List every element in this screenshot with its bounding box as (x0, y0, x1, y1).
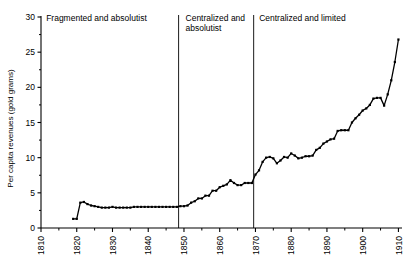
y-tick-label-5: 5 (30, 188, 35, 198)
data-point (326, 140, 328, 142)
data-point (169, 206, 171, 208)
data-point (183, 205, 185, 207)
data-point (126, 207, 128, 209)
data-point (262, 161, 264, 163)
data-point (229, 179, 231, 181)
series-line-per-capita-revenues (73, 40, 398, 219)
annotation-period-2-line-0: Centralized and (186, 13, 246, 23)
data-point (344, 129, 346, 131)
data-point (194, 200, 196, 202)
series-0-group (72, 38, 399, 220)
data-point (340, 129, 342, 131)
data-point (394, 61, 396, 63)
x-tick-label-1860: 1860 (215, 236, 225, 255)
data-point (211, 190, 213, 192)
data-point (294, 154, 296, 156)
data-point (312, 154, 314, 156)
data-point (265, 157, 267, 159)
data-point (97, 206, 99, 208)
data-point (308, 155, 310, 157)
data-point (240, 184, 242, 186)
data-point (140, 206, 142, 208)
x-tick-label-1910: 1910 (394, 236, 404, 255)
data-point (315, 149, 317, 151)
data-point (161, 206, 163, 208)
data-point (144, 206, 146, 208)
data-point (333, 138, 335, 140)
data-point (276, 162, 278, 164)
data-point (165, 206, 167, 208)
data-point (108, 207, 110, 209)
data-point (279, 159, 281, 161)
data-point (201, 197, 203, 199)
data-point (247, 182, 249, 184)
y-axis-label: Per capita revenues (gold grams) (6, 69, 15, 188)
data-point (354, 117, 356, 119)
y-tick-label-20: 20 (26, 82, 36, 92)
x-tick-label-1890: 1890 (322, 236, 332, 255)
x-tick-label-1870: 1870 (251, 236, 261, 255)
per-capita-revenues-line-chart: 0510152025301810182018301840185018601870… (0, 0, 408, 259)
data-point (215, 190, 217, 192)
y-tick-label-30: 30 (26, 12, 36, 22)
data-point (83, 201, 85, 203)
annotation-period-1-line-0: Fragmented and absolutist (46, 13, 147, 23)
data-point (376, 97, 378, 99)
data-point (76, 218, 78, 220)
data-point (397, 38, 399, 40)
data-point (101, 207, 103, 209)
data-point (226, 183, 228, 185)
data-point (297, 157, 299, 159)
y-tick-label-0: 0 (30, 223, 35, 233)
data-point (172, 206, 174, 208)
data-point (351, 121, 353, 123)
x-tick-label-1850: 1850 (179, 236, 189, 255)
data-point (147, 206, 149, 208)
y-tick-label-25: 25 (26, 47, 36, 57)
data-point (272, 157, 274, 159)
data-point (208, 195, 210, 197)
x-tick-label-1840: 1840 (143, 236, 153, 255)
data-point (115, 207, 117, 209)
data-point (79, 202, 81, 204)
data-point (158, 206, 160, 208)
data-point (254, 173, 256, 175)
data-point (290, 152, 292, 154)
data-point (104, 207, 106, 209)
x-tick-label-1810: 1810 (36, 236, 46, 255)
data-point (86, 203, 88, 205)
data-point (304, 155, 306, 157)
data-point (219, 186, 221, 188)
data-point (179, 205, 181, 207)
data-point (322, 143, 324, 145)
annotation-period-3-line-0: Centralized and limited (259, 13, 346, 23)
data-point (90, 204, 92, 206)
data-point (129, 207, 131, 209)
data-point (283, 156, 285, 158)
data-point (251, 182, 253, 184)
data-point (301, 157, 303, 159)
data-point (287, 157, 289, 159)
chart-figure: 0510152025301810182018301840185018601870… (0, 0, 408, 259)
data-point (133, 206, 135, 208)
data-point (151, 206, 153, 208)
data-point (111, 206, 113, 208)
data-point (233, 182, 235, 184)
data-point (337, 130, 339, 132)
data-point (94, 205, 96, 207)
y-tick-label-10: 10 (26, 153, 36, 163)
data-point (72, 218, 74, 220)
data-point (258, 169, 260, 171)
data-point (383, 105, 385, 107)
data-point (329, 138, 331, 140)
data-point (122, 207, 124, 209)
data-point (365, 107, 367, 109)
x-tick-label-1880: 1880 (286, 236, 296, 255)
data-point (119, 207, 121, 209)
x-tick-label-1830: 1830 (108, 236, 118, 255)
data-point (154, 206, 156, 208)
data-point (347, 129, 349, 131)
data-point (136, 206, 138, 208)
data-point (236, 184, 238, 186)
x-tick-label-1900: 1900 (358, 236, 368, 255)
